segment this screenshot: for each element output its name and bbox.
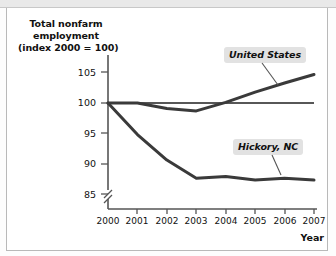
y-tick-marks	[101, 72, 108, 194]
series-line-united-states	[108, 74, 314, 110]
leader-line-hickory-nc	[272, 155, 281, 175]
series-line-hickory-nc	[108, 103, 314, 180]
leader-line-united-states	[262, 63, 278, 85]
chart-plot	[0, 0, 336, 256]
chart-figure: Total nonfarm employment (index 2000 = 1…	[0, 0, 336, 256]
